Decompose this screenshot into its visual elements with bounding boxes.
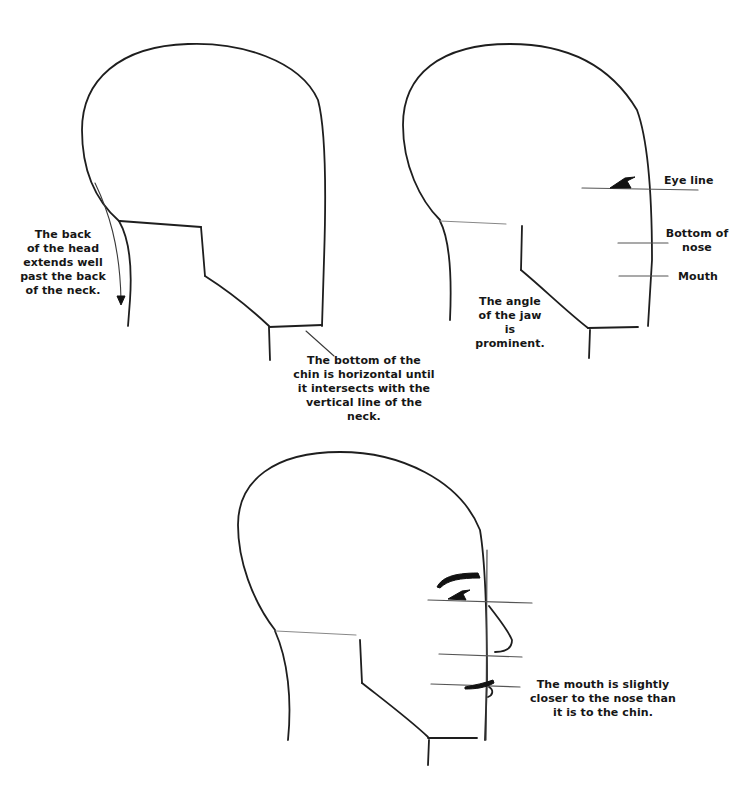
front-of-neck-line (269, 328, 270, 360)
front-of-neck-line (589, 330, 590, 358)
eye-guideline (582, 188, 698, 190)
eyebrow-icon (437, 573, 480, 588)
cranium-outline (82, 44, 325, 326)
chin-leader-line (306, 331, 334, 356)
nose-guideline (439, 654, 522, 657)
chin-bottom-line (588, 327, 638, 328)
jaw-diagonal-line (205, 276, 269, 326)
eye-icon (448, 590, 470, 600)
lower-lip-curve (488, 687, 492, 697)
back-of-neck-line (440, 221, 451, 320)
nose-profile (489, 606, 512, 652)
drawing-tutorial-page: The back of the head extends well past t… (0, 0, 742, 793)
mouth-position-annotation: The mouth is slightly closer to the nose… (523, 678, 683, 720)
jaw-angle-annotation: The angle of the jaw is prominent. (472, 295, 548, 351)
chin-bottom-line (269, 325, 322, 327)
cranium-outline (238, 452, 487, 740)
arrow-head-icon (117, 296, 125, 305)
eye-guideline (428, 600, 532, 603)
jaw-vertical-line (521, 226, 522, 270)
head-sketch-1 (82, 44, 334, 360)
front-of-neck-line (428, 740, 429, 765)
skull-base-line (276, 631, 356, 635)
head-sketch-3 (238, 452, 532, 765)
back-of-neck-line (275, 631, 289, 740)
chin-bottom-annotation: The bottom of the chin is horizontal unt… (292, 354, 436, 424)
back-of-head-annotation: The back of the head extends well past t… (20, 228, 106, 298)
bottom-of-nose-label: Bottom of nose (660, 227, 734, 255)
skull-base-line (120, 221, 201, 227)
jaw-vertical-line (201, 227, 205, 276)
jaw-vertical-line (360, 640, 362, 683)
eye-line-label: Eye line (664, 174, 734, 188)
back-of-neck-line (119, 221, 131, 326)
eye-icon (610, 177, 635, 188)
head-sketch-2 (403, 44, 698, 358)
jaw-diagonal-line (362, 683, 428, 737)
mouth-label: Mouth (678, 270, 738, 284)
skull-base-line (440, 221, 506, 224)
